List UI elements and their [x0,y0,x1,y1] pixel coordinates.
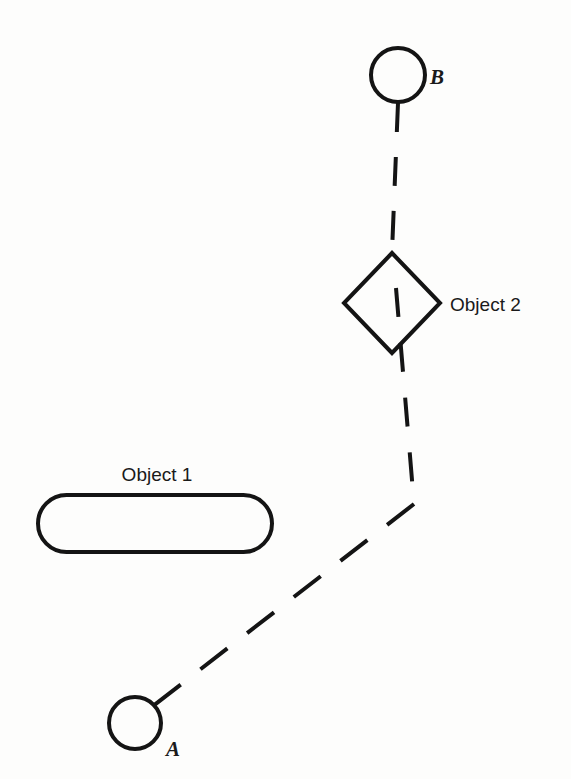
node-b-label: B [429,65,444,89]
link-object2-to-bend [396,288,414,504]
diagram-canvas: B A Object 1 Object 2 [0,0,571,779]
node-b-circle [371,48,425,102]
link-bend-to-a [153,504,414,706]
object1-shape [38,495,272,552]
object2-shape [344,253,440,353]
node-a-label: A [164,737,180,761]
diagram-svg: B A Object 1 Object 2 [0,0,571,779]
link-b-to-object2 [392,103,398,252]
object1-label: Object 1 [122,464,193,485]
object2-label: Object 2 [450,294,521,315]
node-a-circle [109,697,161,749]
